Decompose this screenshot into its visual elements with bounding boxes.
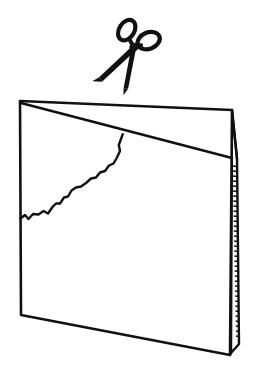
- illustration-canvas: [0, 0, 257, 384]
- card-front-panel: [20, 101, 232, 355]
- illustration-root: Folded card being cut with scissors Line…: [0, 0, 257, 384]
- card-bottom-fold-corner: [230, 352, 231, 355]
- folded-paper-icon: [20, 101, 239, 355]
